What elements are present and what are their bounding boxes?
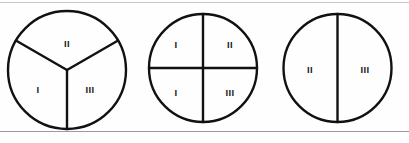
circle-thirds-svg: II I III bbox=[5, 8, 129, 132]
half-label-left: II bbox=[307, 64, 313, 75]
half-label-right: III bbox=[361, 64, 370, 75]
divider-upper-left bbox=[16, 41, 67, 71]
circle-quarters-svg: I II I III bbox=[146, 11, 260, 125]
circle-diagram-row: II I III I II I III II III bbox=[0, 0, 409, 143]
quadrant-label-bottom-left: I bbox=[175, 87, 178, 98]
circle-thirds: II I III bbox=[5, 8, 129, 132]
sector-label-top: II bbox=[64, 38, 70, 49]
quadrant-label-top-left: I bbox=[175, 39, 178, 50]
sector-label-lower-left: I bbox=[37, 84, 40, 95]
divider-upper-right bbox=[67, 41, 118, 71]
circle-halves: II III bbox=[281, 11, 394, 125]
quadrant-label-bottom-right: III bbox=[226, 87, 235, 98]
circle-halves-svg: II III bbox=[281, 11, 394, 125]
bottom-rule-divider bbox=[0, 131, 409, 132]
figure-canvas: II I III I II I III II III bbox=[0, 0, 409, 143]
circle-quarters: I II I III bbox=[146, 11, 260, 125]
quadrant-label-top-right: II bbox=[227, 39, 233, 50]
sector-label-lower-right: III bbox=[86, 84, 95, 95]
